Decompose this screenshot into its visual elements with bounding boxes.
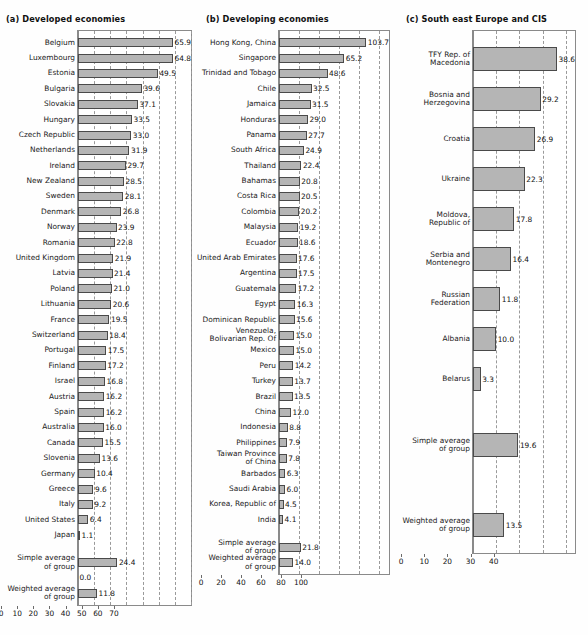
axis-tick-label-70: 70 — [109, 609, 118, 618]
bar-row-label: Jamaica — [189, 100, 279, 108]
bar-value-label: 15.0 — [296, 346, 312, 355]
bar-row-label: Croatia — [383, 135, 473, 143]
bar-value-label: 18.4 — [109, 331, 125, 340]
bar — [78, 115, 132, 124]
bar-row-label: Germany — [0, 470, 78, 478]
bar — [78, 315, 109, 324]
bar-row-label: Slovenia — [0, 454, 78, 462]
bar — [279, 69, 328, 78]
bar-row-label: Switzerland — [0, 331, 78, 339]
bar-row: Costa Rica20.5 — [279, 189, 389, 204]
bar-value-label: 14.2 — [295, 361, 311, 370]
bar-row-label: Canada — [0, 439, 78, 447]
bar-row: Croatia26.9 — [473, 119, 575, 159]
bar-row-label: Honduras — [189, 116, 279, 124]
bar-row: Weighted average of group14.0 — [279, 555, 389, 570]
bar — [78, 558, 117, 567]
bar-row-label: United Arab Emirates — [189, 254, 279, 262]
bar — [279, 54, 344, 63]
bar-value-label: 28.1 — [125, 192, 141, 201]
bar-value-label: 24.9 — [305, 146, 321, 155]
bar — [78, 331, 108, 340]
bar-row: Chile32.5 — [279, 81, 389, 96]
bar-row: Spain16.2 — [78, 404, 191, 419]
bar-row-label: Weighted average of group — [383, 517, 473, 533]
bar — [473, 127, 535, 151]
axis-tick-label-10: 10 — [12, 609, 21, 618]
axis-tick-label-100: 100 — [294, 578, 308, 587]
bar-row-label: Estonia — [0, 69, 78, 77]
bar-row-label: Thailand — [189, 162, 279, 170]
panel-c-axis: 010203040 — [400, 554, 588, 570]
bar-row: Bulgaria39.6 — [78, 81, 191, 96]
bar-row-label: Romania — [0, 239, 78, 247]
bar-row-label: Guatemala — [189, 285, 279, 293]
bar-row: Belgium65.9 — [78, 35, 191, 50]
bar — [279, 161, 301, 170]
bar-row: Bosnia and Herzegovina29.2 — [473, 79, 575, 119]
bar — [279, 331, 294, 340]
bar-value-label: 39.6 — [143, 84, 159, 93]
bar-value-label: 16.0 — [105, 423, 121, 432]
bar — [279, 300, 295, 309]
bar-row-label: Barbados — [189, 470, 279, 478]
bar-row-label: Moldova, Republic of — [383, 211, 473, 227]
bar — [78, 438, 103, 447]
bar-row: Denmark26.8 — [78, 204, 191, 219]
axis-tick-label-20: 20 — [29, 609, 38, 618]
bar-row: China12.0 — [279, 404, 389, 419]
bar-row: Saudi Arabia6.0 — [279, 481, 389, 496]
bar-row: Latvia21.4 — [78, 266, 191, 281]
bar-value-label: 11.8 — [502, 295, 518, 304]
bar-value-label: 38.6 — [559, 55, 575, 64]
bar-row-label: Philippines — [189, 439, 279, 447]
bar-value-label: 48.6 — [329, 69, 345, 78]
bar-row: Honduras29.0 — [279, 112, 389, 127]
bar-row: Trinidad and Tobago48.6 — [279, 66, 389, 81]
bar — [279, 485, 285, 494]
bar-row-label: Netherlands — [0, 146, 78, 154]
bar-row-label: Turkey — [189, 377, 279, 385]
bar-row-label: Ukraine — [383, 175, 473, 183]
bar-value-label: 37.1 — [139, 100, 155, 109]
bar — [279, 408, 291, 417]
group-spacer — [473, 465, 575, 505]
bar-row: Korea, Republic of4.5 — [279, 497, 389, 512]
bar-value-label: 29.2 — [542, 95, 558, 104]
bar — [279, 131, 307, 140]
bar — [78, 100, 138, 109]
bar-row: Belarus3.3 — [473, 359, 575, 399]
bar-value-label: 22.3 — [526, 175, 542, 184]
bar-value-label: 31.9 — [131, 146, 147, 155]
bar-row: Germany10.4 — [78, 466, 191, 481]
bar-row-label: Mexico — [189, 346, 279, 354]
bar-value-label: 24.4 — [119, 558, 135, 567]
bar — [473, 247, 511, 271]
bar-value-label: 31.5 — [312, 100, 328, 109]
bar — [78, 207, 121, 216]
bar-row: Barbados6.3 — [279, 466, 389, 481]
bar-value-label: 17.8 — [516, 215, 532, 224]
bar-value-label: 7.9 — [288, 438, 300, 447]
bar-row-label: Malaysia — [189, 223, 279, 231]
bar — [473, 433, 518, 457]
bar-row-label: Denmark — [0, 208, 78, 216]
bar-row: Hungary33.5 — [78, 112, 191, 127]
bar-row-label: Sweden — [0, 192, 78, 200]
bar — [473, 367, 481, 391]
bar-value-label: 13.5 — [506, 521, 522, 530]
axis-tick-label-20: 20 — [216, 578, 225, 587]
bar-row: Venezuela, Bolivarian Rep. Of15.0 — [279, 327, 389, 342]
bar — [78, 500, 93, 509]
bar — [279, 115, 308, 124]
bar-row: Lithuania20.6 — [78, 297, 191, 312]
bar-row-label: Trinidad and Tobago — [189, 69, 279, 77]
bar-row-label: Saudi Arabia — [189, 485, 279, 493]
bar-row-label: New Zealand — [0, 177, 78, 185]
bar-value-label: 15.6 — [296, 315, 312, 324]
bar-value-label: 6.0 — [287, 485, 299, 494]
bar-value-label: 3.3 — [482, 375, 494, 384]
bar-value-label: 11.8 — [99, 589, 115, 598]
bar-row: Sweden28.1 — [78, 189, 191, 204]
bar — [473, 167, 525, 191]
